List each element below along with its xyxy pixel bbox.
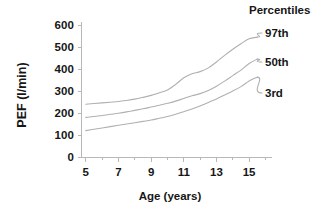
y-tick-label: 300 (40, 86, 74, 98)
x-tick-label: 11 (174, 167, 194, 179)
y-tick-label: 0 (40, 152, 74, 164)
series-line-97th (86, 37, 257, 104)
legend-leader-line (257, 33, 262, 37)
x-tick-label: 13 (206, 167, 226, 179)
y-tick-label: 400 (40, 64, 74, 76)
y-tick-label: 200 (40, 108, 74, 120)
series-line-3rd (86, 77, 257, 130)
x-tick-label: 5 (76, 167, 96, 179)
legend-leader-line (257, 59, 262, 62)
x-axis-title: Age (years) (100, 191, 240, 203)
pef-percentile-chart: PEF (l/min) Age (years) Percentiles 97th… (0, 0, 326, 221)
y-tick-label: 500 (40, 42, 74, 54)
series-group (86, 37, 257, 131)
y-tick-label: 600 (40, 20, 74, 32)
legend-label-97th: 97th (265, 28, 289, 40)
legend-label-3rd: 3rd (265, 88, 283, 100)
x-tick-label: 9 (141, 167, 161, 179)
x-tick-label: 15 (239, 167, 259, 179)
legend-leader-lines (257, 33, 262, 93)
y-axis-title: PEF (l/min) (16, 40, 29, 150)
legend-title: Percentiles (249, 5, 310, 17)
x-tick-label: 7 (108, 167, 128, 179)
legend-leader-line (257, 77, 262, 93)
y-tick-label: 100 (40, 130, 74, 142)
legend-label-50th: 50th (265, 57, 289, 69)
series-line-50th (86, 59, 257, 117)
